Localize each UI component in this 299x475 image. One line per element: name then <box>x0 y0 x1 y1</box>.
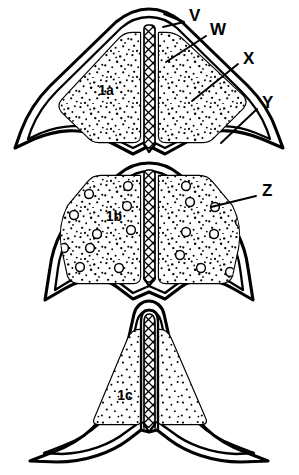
section-1a-label: 1a <box>98 82 114 98</box>
anatomical-figure: 1a <box>0 0 299 475</box>
figure-canvas: 1a <box>0 0 299 475</box>
callout-label-x: X <box>243 49 255 68</box>
section-1b-label: 1b <box>106 208 122 224</box>
section-1c-septum <box>144 314 155 428</box>
callout-label-v: V <box>189 6 201 25</box>
callout-label-z: Z <box>262 181 272 200</box>
section-1c-label: 1c <box>117 387 133 403</box>
callout-label-w: W <box>210 20 227 39</box>
section-1a-septum <box>144 25 155 148</box>
callout-label-y: Y <box>262 93 274 112</box>
section-1b-septum <box>144 170 155 282</box>
